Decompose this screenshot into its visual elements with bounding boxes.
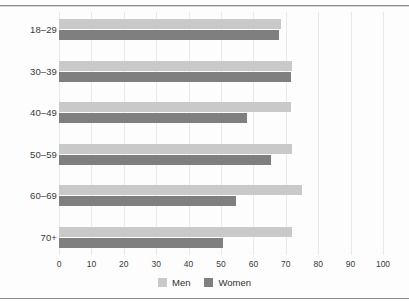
gridline-30	[156, 12, 157, 255]
bar-men-2	[59, 61, 292, 71]
x-axis-tick-0: 0	[57, 259, 62, 269]
bar-men-3	[59, 102, 291, 112]
x-axis-tick-80: 80	[313, 259, 322, 269]
y-axis-label-1: 18–29	[5, 24, 57, 35]
top-divider-rule-light	[0, 6, 409, 7]
gridline-0	[59, 12, 60, 255]
gridline-40	[189, 12, 190, 255]
gridline-60	[253, 12, 254, 255]
gridline-100	[383, 12, 384, 255]
x-axis-tick-20: 20	[119, 259, 128, 269]
bottom-divider-rule	[0, 298, 409, 299]
bar-row	[59, 19, 383, 42]
legend-label-women: Women	[218, 277, 251, 288]
legend-label-men: Men	[172, 277, 190, 288]
x-axis-tick-100: 100	[376, 259, 390, 269]
bar-men-1	[59, 19, 281, 29]
x-axis-tick-90: 90	[346, 259, 355, 269]
bar-row	[59, 185, 383, 208]
y-axis-label-6: 70+	[5, 232, 57, 243]
bar-row	[59, 227, 383, 250]
bar-women-1	[59, 30, 279, 40]
y-axis-label-5: 60–69	[5, 190, 57, 201]
x-axis-tick-50: 50	[216, 259, 225, 269]
bar-women-2	[59, 72, 291, 82]
gridline-10	[91, 12, 92, 255]
x-axis-tick-40: 40	[184, 259, 193, 269]
bar-row	[59, 144, 383, 167]
bar-women-5	[59, 196, 236, 206]
gridline-90	[351, 12, 352, 255]
y-axis-label-2: 30–39	[5, 66, 57, 77]
bar-women-3	[59, 113, 247, 123]
legend-item-men[interactable]: Men	[158, 277, 190, 288]
x-axis-tick-10: 10	[87, 259, 96, 269]
bar-women-4	[59, 155, 271, 165]
bar-row	[59, 102, 383, 125]
legend-swatch-men	[158, 278, 167, 287]
x-axis-tick-60: 60	[249, 259, 258, 269]
gridline-80	[318, 12, 319, 255]
legend-item-women[interactable]: Women	[204, 277, 251, 288]
gridline-20	[124, 12, 125, 255]
bar-women-6	[59, 238, 223, 248]
bar-men-4	[59, 144, 292, 154]
x-axis-tick-30: 30	[151, 259, 160, 269]
chart-figure: 18–2930–3940–4950–5960–6970+ 01020304050…	[0, 0, 409, 301]
legend-swatch-women	[204, 278, 213, 287]
plot-area	[59, 12, 383, 255]
x-axis-tick-70: 70	[281, 259, 290, 269]
bar-men-6	[59, 227, 292, 237]
gridline-50	[221, 12, 222, 255]
bar-men-5	[59, 185, 302, 195]
y-axis-label-3: 40–49	[5, 107, 57, 118]
chart-legend: MenWomen	[0, 277, 409, 288]
y-axis-label-4: 50–59	[5, 149, 57, 160]
gridline-70	[286, 12, 287, 255]
bar-row	[59, 61, 383, 84]
